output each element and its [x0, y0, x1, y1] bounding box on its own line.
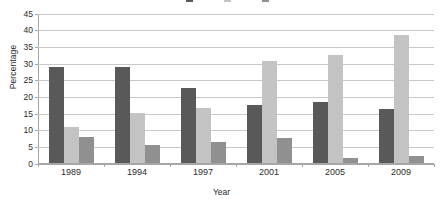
x-axis-tick	[236, 164, 237, 167]
bar	[145, 145, 160, 163]
y-axis-tick-label: 5	[3, 143, 33, 152]
y-axis-tick	[35, 147, 38, 148]
legend-swatch-series-3	[262, 0, 269, 2]
gridline	[38, 147, 434, 148]
x-axis-tick-label: 1994	[104, 168, 170, 177]
y-axis-tick-label: 25	[3, 76, 33, 85]
y-axis-tick	[35, 14, 38, 15]
chart-legend: Series 1 Series 2 Series 3	[186, 0, 293, 3]
legend-label-series-3: Series 3	[271, 0, 293, 2]
x-axis-title: Year	[0, 187, 443, 197]
legend-label-series-1: Series 1	[195, 0, 217, 2]
x-axis-tick-label: 1989	[38, 168, 104, 177]
y-axis-tick-label: 45	[3, 10, 33, 19]
bar	[49, 67, 64, 163]
gridline	[38, 130, 434, 131]
y-axis-tick-label: 40	[3, 26, 33, 35]
legend-swatch-series-2	[224, 0, 231, 2]
x-axis-tick	[368, 164, 369, 167]
bar	[196, 108, 211, 163]
y-axis-tick	[35, 64, 38, 65]
y-axis-tick-label: 30	[3, 60, 33, 69]
y-axis-line	[38, 14, 39, 165]
gridline	[38, 97, 434, 98]
x-axis-tick	[302, 164, 303, 167]
bar	[115, 67, 130, 163]
plot-area	[38, 14, 434, 164]
bar-chart: Series 1 Series 2 Series 3 Percentage Ye…	[0, 0, 443, 204]
gridline	[38, 114, 434, 115]
y-axis-tick	[35, 80, 38, 81]
bar	[247, 105, 262, 163]
y-axis-tick-label: 20	[3, 93, 33, 102]
y-axis-tick-label: 35	[3, 43, 33, 52]
bar	[409, 156, 424, 163]
bar	[79, 137, 94, 163]
y-axis-tick-label: 0	[3, 160, 33, 169]
x-axis-tick	[170, 164, 171, 167]
x-axis-tick-label: 2001	[236, 168, 302, 177]
x-axis-tick	[434, 164, 435, 167]
legend-entry-series-3: Series 3	[262, 0, 293, 2]
y-axis-tick	[35, 30, 38, 31]
bar	[64, 127, 79, 163]
gridline	[38, 64, 434, 65]
y-axis-tick-label: 10	[3, 126, 33, 135]
y-axis-tick	[35, 130, 38, 131]
gridline	[38, 80, 434, 81]
x-axis-tick	[104, 164, 105, 167]
bar	[328, 55, 343, 163]
y-axis-tick-label: 15	[3, 110, 33, 119]
gridline	[38, 47, 434, 48]
x-axis-tick-label: 2009	[368, 168, 434, 177]
bar	[379, 109, 394, 163]
x-axis-tick-label: 2005	[302, 168, 368, 177]
x-axis-tick-label: 1997	[170, 168, 236, 177]
bar	[211, 142, 226, 163]
legend-entry-series-1: Series 1	[186, 0, 217, 2]
bar	[394, 35, 409, 163]
y-axis-tick	[35, 114, 38, 115]
bar	[181, 88, 196, 163]
bar	[343, 158, 358, 163]
bar	[262, 61, 277, 163]
gridline	[38, 30, 434, 31]
bar	[313, 102, 328, 163]
y-axis-tick	[35, 97, 38, 98]
bar	[130, 113, 145, 163]
bar	[277, 138, 292, 163]
x-axis-tick	[38, 164, 39, 167]
gridline	[38, 14, 434, 15]
legend-label-series-2: Series 2	[233, 0, 255, 2]
legend-entry-series-2: Series 2	[224, 0, 255, 2]
y-axis-tick	[35, 47, 38, 48]
legend-swatch-series-1	[186, 0, 193, 2]
